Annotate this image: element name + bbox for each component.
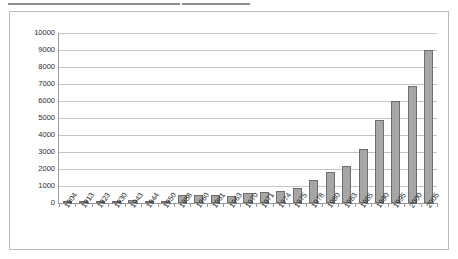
y-axis-tick-label: 2000 xyxy=(38,165,55,173)
y-axis-tick-label: 9000 xyxy=(38,46,55,54)
y-axis-tick-label: 10000 xyxy=(34,29,55,37)
rule-segment-left xyxy=(8,3,180,5)
plot-area: 0100020003000400050006000700080009000100… xyxy=(58,33,437,204)
chart-frame: 0100020003000400050006000700080009000100… xyxy=(9,11,449,250)
x-axis-tick-labels: 1904191319231930194319441950195819601961… xyxy=(58,205,436,249)
bar xyxy=(408,86,417,203)
y-axis-tick-label: 4000 xyxy=(38,131,55,139)
bar xyxy=(391,101,400,203)
bar-series xyxy=(59,33,437,203)
y-axis-tick-label: 7000 xyxy=(38,80,55,88)
y-axis-tick-label: 3000 xyxy=(38,148,55,156)
y-axis-tick-label: 6000 xyxy=(38,97,55,105)
y-axis-tick-label: 8000 xyxy=(38,63,55,71)
y-axis-tick-label: 1000 xyxy=(38,182,55,190)
y-axis-tick-label: 5000 xyxy=(38,114,55,122)
rule-segment-right xyxy=(182,3,250,5)
y-axis-tick-label: 0 xyxy=(51,199,55,207)
bar xyxy=(424,50,433,203)
document-top-rules xyxy=(0,2,458,8)
x-axis-tick-mark xyxy=(437,203,438,207)
